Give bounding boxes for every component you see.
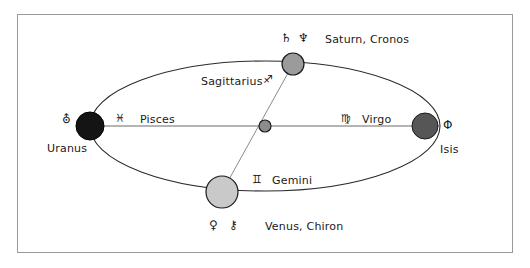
gemini-glyph-icon: ♊ — [252, 174, 262, 185]
isis-glyph-icon: Φ — [443, 119, 452, 131]
virgo-label: Virgo — [362, 114, 391, 125]
node-venus[interactable] — [206, 176, 238, 208]
sagittarius-label: Sagittarius — [201, 76, 263, 87]
node-center[interactable] — [259, 120, 271, 132]
uranus-glyph-icon: ⛢ — [62, 113, 71, 125]
pisces-glyph-icon: ♓ — [115, 113, 125, 124]
saturn-glyph-icon: ♄ — [281, 32, 292, 44]
venus-glyph-icon: ♀ — [209, 219, 218, 231]
saturn-cronos-label: Saturn, Cronos — [325, 34, 409, 45]
uranus-label: Uranus — [47, 143, 87, 154]
chiron-glyph-icon: ⚷ — [229, 219, 238, 231]
node-saturn[interactable] — [282, 53, 304, 75]
sagittarius-glyph-icon: ♐ — [263, 74, 273, 85]
isis-label: Isis — [440, 144, 459, 155]
gemini-label: Gemini — [272, 175, 312, 186]
venus-chiron-label: Venus, Chiron — [265, 221, 343, 232]
cronos-glyph-icon: ♆ — [298, 32, 309, 44]
pisces-label: Pisces — [140, 114, 175, 125]
node-isis[interactable] — [412, 113, 438, 139]
virgo-glyph-icon: ♍ — [341, 113, 351, 124]
diagram-canvas: ♄ ♆ Saturn, Cronos ⛢ Uranus Φ Isis ♀ ⚷ V… — [0, 0, 530, 268]
node-uranus[interactable] — [76, 112, 104, 140]
